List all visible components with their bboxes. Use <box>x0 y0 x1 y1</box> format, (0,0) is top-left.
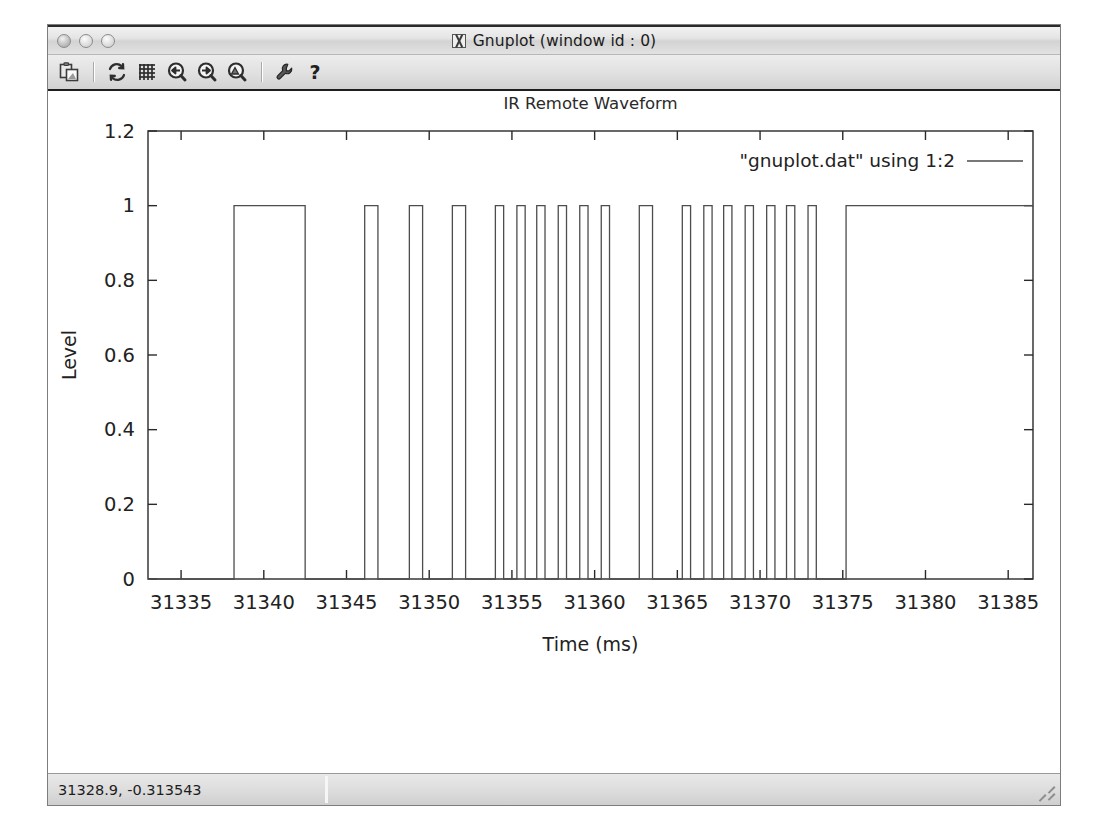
close-button[interactable] <box>57 34 71 48</box>
gnuplot-plot: IR Remote Waveform00.20.40.60.811.231335… <box>48 91 1060 771</box>
zoom-previous-icon[interactable] <box>163 58 191 86</box>
x-tick-label: 31350 <box>398 591 460 614</box>
y-tick-label: 0.8 <box>104 269 135 292</box>
x-window-icon <box>452 34 466 48</box>
statusbar: 31328.9, -0.313543 <box>48 773 1060 805</box>
window-title-group: Gnuplot (window id : 0) <box>48 27 1060 54</box>
x-tick-label: 31385 <box>977 591 1039 614</box>
x-tick-label: 31375 <box>812 591 874 614</box>
window-titlebar[interactable]: Gnuplot (window id : 0) <box>48 25 1060 55</box>
grid-icon[interactable] <box>133 58 161 86</box>
statusbar-divider <box>325 776 328 803</box>
plot-canvas[interactable]: IR Remote Waveform00.20.40.60.811.231335… <box>48 91 1060 773</box>
toolbar: ? <box>48 55 1060 91</box>
settings-wrench-icon[interactable] <box>271 58 299 86</box>
zoom-next-icon[interactable] <box>193 58 221 86</box>
svg-text:?: ? <box>309 61 320 83</box>
help-icon[interactable]: ? <box>301 58 329 86</box>
maximize-button[interactable] <box>101 34 115 48</box>
toolbar-separator <box>93 62 95 82</box>
legend-entry-label: "gnuplot.dat" using 1:2 <box>740 150 955 171</box>
y-tick-label: 1.2 <box>104 120 135 143</box>
x-axis-label: Time (ms) <box>542 633 639 655</box>
resize-grip-icon[interactable] <box>1036 783 1056 803</box>
x-tick-label: 31345 <box>315 591 377 614</box>
x-axis: 3133531340313453135031355313603136531370… <box>150 131 1039 614</box>
plot-border <box>148 131 1033 579</box>
autoscale-icon[interactable] <box>223 58 251 86</box>
y-tick-label: 0.6 <box>104 344 135 367</box>
x-tick-label: 31355 <box>481 591 543 614</box>
y-tick-label: 0.4 <box>104 418 135 441</box>
y-tick-label: 1 <box>123 194 135 217</box>
x-tick-label: 31365 <box>646 591 708 614</box>
y-axis-label: Level <box>58 330 80 380</box>
x-tick-label: 31335 <box>150 591 212 614</box>
chart-title: IR Remote Waveform <box>503 94 677 113</box>
mouse-coordinates: 31328.9, -0.313543 <box>48 782 202 798</box>
window-controls <box>48 34 115 48</box>
x-tick-label: 31370 <box>729 591 791 614</box>
x-tick-label: 31380 <box>894 591 956 614</box>
y-tick-label: 0 <box>123 568 135 591</box>
copy-to-clipboard-icon[interactable] <box>55 58 83 86</box>
window-title: Gnuplot (window id : 0) <box>473 32 657 50</box>
x-tick-label: 31340 <box>233 591 295 614</box>
gnuplot-window: Gnuplot (window id : 0) <box>47 24 1061 806</box>
toolbar-separator <box>261 62 263 82</box>
chart-legend: "gnuplot.dat" using 1:2 <box>740 150 1023 171</box>
x-tick-label: 31360 <box>564 591 626 614</box>
data-series-line <box>148 206 1033 579</box>
y-tick-label: 0.2 <box>104 493 135 516</box>
minimize-button[interactable] <box>79 34 93 48</box>
replot-icon[interactable] <box>103 58 131 86</box>
y-axis: 00.20.40.60.811.2 <box>104 120 1033 591</box>
